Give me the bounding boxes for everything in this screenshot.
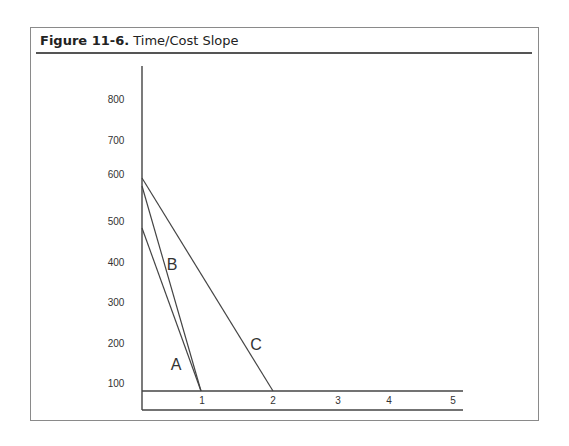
y-tick-label: 100 bbox=[108, 378, 125, 389]
x-tick-label: 4 bbox=[386, 395, 392, 406]
y-tick-label: 600 bbox=[108, 169, 125, 180]
y-tick-label: 500 bbox=[108, 216, 125, 227]
series-label-c: C bbox=[250, 336, 262, 353]
x-tick-label: 3 bbox=[335, 395, 341, 406]
x-tick-label: 5 bbox=[450, 395, 456, 406]
series-label-a: A bbox=[171, 356, 182, 373]
x-tick-label: 2 bbox=[270, 395, 276, 406]
y-tick-label: 200 bbox=[108, 338, 125, 349]
y-tick-label: 300 bbox=[108, 297, 125, 308]
y-tick-label: 400 bbox=[108, 257, 125, 268]
series-label-b: B bbox=[167, 256, 178, 273]
chart-plot: 800 700 600 500 400 300 200 100 1 2 3 4 … bbox=[0, 0, 569, 446]
y-tick-label: 700 bbox=[108, 135, 125, 146]
x-tick-label: 1 bbox=[199, 395, 205, 406]
series-line-c bbox=[142, 178, 273, 391]
y-tick-label: 800 bbox=[108, 94, 125, 105]
